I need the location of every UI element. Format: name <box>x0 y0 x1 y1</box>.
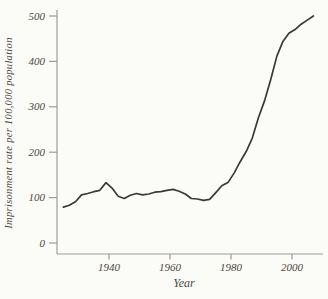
x-tick-label: 1960 <box>159 261 182 273</box>
x-axis-ticks: 1940196019802000 <box>98 254 304 273</box>
y-tick-label: 400 <box>29 55 46 67</box>
x-axis-title: Year <box>173 276 195 290</box>
y-axis-title: Imprisonment rate per 100,000 population <box>3 37 14 229</box>
x-tick-label: 2000 <box>281 261 304 273</box>
y-tick-label: 100 <box>29 191 46 203</box>
y-axis-ticks: 0100200300400500 <box>28 10 58 249</box>
y-tick-label: 500 <box>29 10 46 22</box>
y-tick-label: 200 <box>29 146 46 158</box>
x-tick-label: 1940 <box>98 261 121 273</box>
imprisonment-rate-line <box>63 16 313 207</box>
y-tick-label: 300 <box>28 100 46 112</box>
y-tick-label: 0 <box>40 237 46 249</box>
x-tick-label: 1980 <box>220 261 243 273</box>
imprisonment-chart: 0100200300400500 1940196019802000 Impris… <box>0 0 328 299</box>
imprisonment-rate-figure: 0100200300400500 1940196019802000 Impris… <box>0 0 328 299</box>
